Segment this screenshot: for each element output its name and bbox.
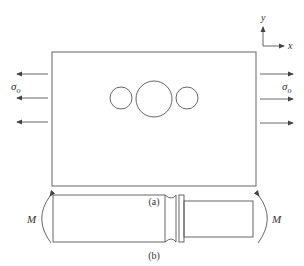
figure-canvas: σo σo y x (a) M M (b) [0, 0, 304, 266]
left-stress-arrows [17, 74, 48, 122]
plate-outline [52, 52, 256, 186]
moment-arrow-right-icon [258, 196, 267, 243]
coordinate-axes [263, 27, 284, 46]
caption-a: (a) [148, 196, 159, 208]
stress-label-left: σo [11, 80, 20, 95]
shaft-shoulder [179, 195, 184, 242]
hole-center [136, 81, 172, 117]
caption-b: (b) [148, 250, 160, 262]
moment-label-left: M [26, 213, 37, 225]
y-axis-label: y [260, 12, 266, 23]
stress-label-right: σo [282, 80, 291, 95]
plate-figure-a [52, 52, 256, 186]
x-axis-label: x [287, 40, 293, 51]
hole-right [176, 87, 198, 109]
shaft-small-section [184, 201, 253, 237]
moment-arrow-left-icon [42, 196, 51, 243]
right-stress-arrows [260, 74, 293, 123]
hole-left [110, 87, 132, 109]
moment-label-right: M [271, 213, 282, 225]
